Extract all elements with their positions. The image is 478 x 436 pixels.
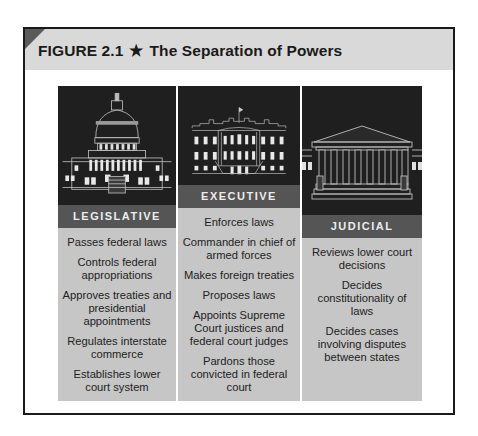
capitol-building-icon bbox=[58, 86, 176, 205]
branch-column-judicial: JUDICIAL Reviews lower court decisions D… bbox=[302, 86, 422, 401]
figure-frame: FIGURE 2.1★The Separation of Powers bbox=[23, 27, 455, 415]
power-item: Decides cases involving disputes between… bbox=[306, 325, 418, 364]
branch-column-executive: EXECUTIVE Enforces laws Commander in chi… bbox=[178, 86, 300, 401]
power-item: Proposes laws bbox=[182, 289, 296, 302]
white-house-icon bbox=[178, 86, 300, 185]
power-item: Controls federal appropriations bbox=[62, 256, 172, 282]
figure-label: FIGURE 2.1 bbox=[38, 42, 123, 59]
supreme-court-icon bbox=[302, 86, 422, 215]
power-item: Makes foreign treaties bbox=[182, 269, 296, 282]
power-item: Passes federal laws bbox=[62, 236, 172, 249]
power-item: Approves treaties and presidential appoi… bbox=[62, 289, 172, 328]
figure-title: FIGURE 2.1★The Separation of Powers bbox=[38, 42, 342, 60]
power-item: Regulates interstate commerce bbox=[62, 335, 172, 361]
branch-label-judicial: JUDICIAL bbox=[302, 215, 422, 238]
power-item: Commander in chief of armed forces bbox=[182, 236, 296, 262]
star-icon: ★ bbox=[129, 42, 143, 59]
branches-panel: LEGISLATIVE Passes federal laws Controls… bbox=[58, 86, 422, 401]
powers-list-judicial: Reviews lower court decisions Decides co… bbox=[302, 238, 422, 371]
power-item: Reviews lower court decisions bbox=[306, 246, 418, 272]
branch-label-legislative: LEGISLATIVE bbox=[58, 205, 176, 228]
figure-title-bar: FIGURE 2.1★The Separation of Powers bbox=[25, 29, 453, 70]
powers-list-legislative: Passes federal laws Controls federal app… bbox=[58, 228, 176, 401]
branch-column-legislative: LEGISLATIVE Passes federal laws Controls… bbox=[58, 86, 176, 401]
power-item: Decides constitutionality of laws bbox=[306, 279, 418, 318]
branch-label-executive: EXECUTIVE bbox=[178, 185, 300, 208]
power-item: Pardons those convicted in federal court bbox=[182, 355, 296, 394]
power-item: Appoints Supreme Court justices and fede… bbox=[182, 309, 296, 348]
figure-title-text: The Separation of Powers bbox=[150, 42, 343, 59]
powers-list-executive: Enforces laws Commander in chief of arme… bbox=[178, 208, 300, 401]
power-item: Enforces laws bbox=[182, 216, 296, 229]
power-item: Establishes lower court system bbox=[62, 368, 172, 394]
